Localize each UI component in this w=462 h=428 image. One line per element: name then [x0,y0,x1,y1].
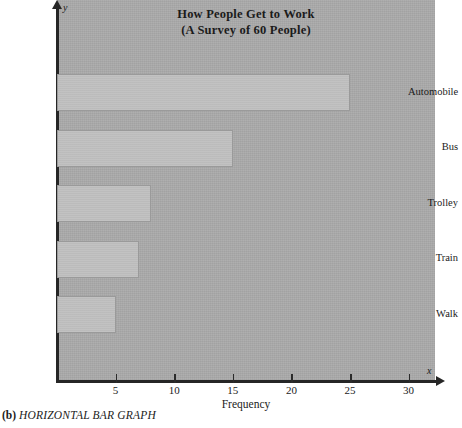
bar-bus [57,130,233,167]
bar-automobile [57,74,350,111]
category-label-automobile: Automobile [408,86,462,97]
figure-caption-text: HORIZONTAL BAR GRAPH [19,409,156,421]
figure-caption: (b) HORIZONTAL BAR GRAPH [2,409,156,421]
x-axis-tick [174,374,176,383]
chart-title-line1: How People Get to Work [57,6,435,22]
y-axis-letter-label: y [63,2,67,13]
x-axis-arrow-icon [436,376,445,386]
x-axis-line [56,380,439,383]
x-axis-tick-label: 30 [394,384,424,396]
x-axis-tick [409,374,411,383]
x-axis-tick-label: 20 [276,384,306,396]
chart-title: How People Get to Work (A Survey of 60 P… [57,6,435,38]
chart-title-line2: (A Survey of 60 People) [57,22,435,38]
x-axis-tick [291,374,293,383]
category-label-trolley: Trolley [408,197,462,208]
category-label-walk: Walk [408,308,462,319]
x-axis-tick [116,374,118,383]
x-axis-tick-label: 5 [101,384,131,396]
x-axis-tick [350,374,352,383]
x-axis-letter-label: x [427,365,431,376]
bar-train [57,241,139,278]
x-axis-tick-label: 10 [159,384,189,396]
x-axis-tick-label: 25 [335,384,365,396]
category-label-bus: Bus [408,141,462,152]
x-axis-tick [233,374,235,383]
figure-caption-index: (b) [2,409,16,421]
bar-walk [57,296,116,333]
bar-trolley [57,185,151,222]
category-label-train: Train [408,252,462,263]
horizontal-bar-graph-figure: How People Get to Work (A Survey of 60 P… [0,0,462,428]
y-axis-arrow-icon [52,0,62,9]
x-axis-tick-label: 15 [218,384,248,396]
